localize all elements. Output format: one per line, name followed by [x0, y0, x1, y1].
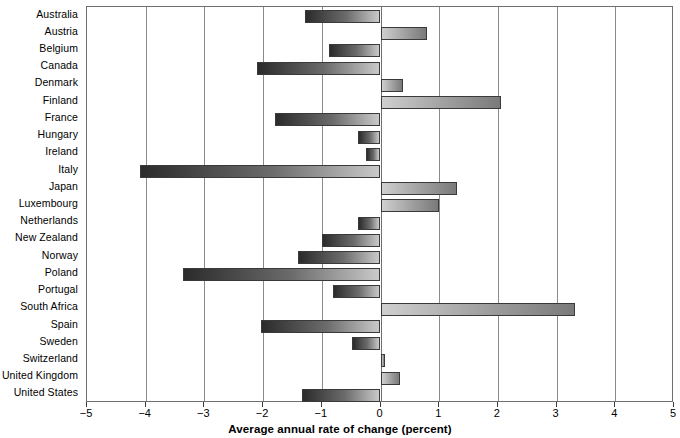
category-label-hungary: Hungary	[0, 129, 78, 140]
bar-row	[87, 282, 672, 299]
category-label-poland: Poland	[0, 267, 78, 278]
x-tick-label: −1	[306, 407, 336, 420]
bar-france	[275, 113, 380, 126]
x-axis-title: Average annual rate of change (percent)	[0, 423, 680, 435]
bar-row	[87, 128, 672, 145]
bar-norway	[298, 251, 380, 264]
bar-row	[87, 386, 672, 403]
bar-luxembourg	[381, 199, 439, 212]
category-label-ireland: Ireland	[0, 146, 78, 157]
bar-row	[87, 162, 672, 179]
bar-spain	[261, 320, 380, 333]
bar-row	[87, 24, 672, 41]
category-axis-labels: AustraliaAustriaBelgiumCanadaDenmarkFinl…	[0, 6, 78, 402]
bar-row	[87, 93, 672, 110]
category-label-austria: Austria	[0, 26, 78, 37]
bar-row	[87, 179, 672, 196]
bar-netherlands	[358, 217, 380, 230]
category-label-united-states: United States	[0, 387, 78, 398]
bar-united-kingdom	[381, 372, 401, 385]
category-label-sweden: Sweden	[0, 336, 78, 347]
category-label-spain: Spain	[0, 319, 78, 330]
bar-hungary	[358, 131, 380, 144]
category-label-netherlands: Netherlands	[0, 215, 78, 226]
x-tick-label: −2	[247, 407, 277, 420]
x-tick-label: 5	[658, 407, 680, 420]
bar-finland	[381, 96, 502, 109]
category-label-france: France	[0, 112, 78, 123]
x-tick-label: 4	[599, 407, 629, 420]
x-tick-label: 2	[482, 407, 512, 420]
x-tick-label: 3	[541, 407, 571, 420]
bar-united-states	[302, 389, 380, 402]
bar-row	[87, 265, 672, 282]
category-label-australia: Australia	[0, 9, 78, 20]
category-label-united-kingdom: United Kingdom	[0, 370, 78, 381]
bar-row	[87, 76, 672, 93]
bar-poland	[183, 268, 380, 281]
bar-row	[87, 41, 672, 58]
bar-australia	[305, 10, 380, 23]
category-label-canada: Canada	[0, 60, 78, 71]
bar-denmark	[381, 79, 404, 92]
x-axis: −5−4−3−2−1012345	[86, 402, 673, 422]
category-label-switzerland: Switzerland	[0, 353, 78, 364]
category-label-new-zealand: New Zealand	[0, 232, 78, 243]
bar-austria	[381, 27, 427, 40]
bar-row	[87, 300, 672, 317]
x-tick-label: −3	[188, 407, 218, 420]
bar-portugal	[333, 285, 381, 298]
plot-area	[86, 6, 673, 402]
category-label-south-africa: South Africa	[0, 301, 78, 312]
bar-canada	[257, 62, 380, 75]
bar-row	[87, 317, 672, 334]
bar-sweden	[352, 337, 381, 350]
bar-row	[87, 351, 672, 368]
bar-japan	[381, 182, 458, 195]
bar-ireland	[366, 148, 380, 161]
category-label-japan: Japan	[0, 181, 78, 192]
bar-row	[87, 145, 672, 162]
x-tick-label: 0	[365, 407, 395, 420]
category-label-finland: Finland	[0, 95, 78, 106]
bar-row	[87, 334, 672, 351]
category-label-luxembourg: Luxembourg	[0, 198, 78, 209]
bar-row	[87, 196, 672, 213]
x-tick-label: −5	[71, 407, 101, 420]
x-tick-label: −4	[130, 407, 160, 420]
category-label-belgium: Belgium	[0, 43, 78, 54]
x-tick-label: 1	[423, 407, 453, 420]
bar-row	[87, 7, 672, 24]
bar-row	[87, 214, 672, 231]
bar-new-zealand	[322, 234, 381, 247]
bar-row	[87, 248, 672, 265]
category-label-denmark: Denmark	[0, 77, 78, 88]
category-label-italy: Italy	[0, 164, 78, 175]
bar-south-africa	[381, 303, 575, 316]
bar-belgium	[329, 44, 380, 57]
bar-row	[87, 231, 672, 248]
category-label-norway: Norway	[0, 250, 78, 261]
bar-italy	[140, 165, 380, 178]
bar-chart: AustraliaAustriaBelgiumCanadaDenmarkFinl…	[0, 0, 680, 438]
bar-row	[87, 59, 672, 76]
category-label-portugal: Portugal	[0, 284, 78, 295]
bar-row	[87, 369, 672, 386]
bar-switzerland	[381, 354, 386, 367]
bar-row	[87, 110, 672, 127]
